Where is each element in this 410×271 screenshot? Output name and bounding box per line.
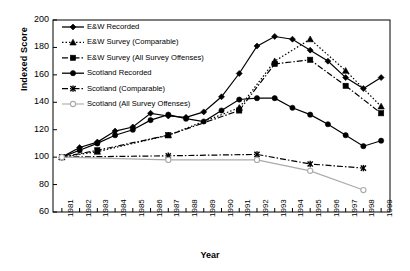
- legend-swatch-1: [62, 39, 84, 45]
- series-4: [59, 151, 366, 171]
- x-tick-1991: 1991: [243, 199, 252, 217]
- x-tick-1982: 1982: [84, 199, 93, 217]
- x-tick-1987: 1987: [172, 199, 181, 217]
- x-tick-1999: 1999: [385, 199, 394, 217]
- chart-legend-swatches: [62, 24, 84, 107]
- x-tick-1984: 1984: [119, 199, 128, 217]
- x-tick-1998: 1998: [367, 199, 376, 217]
- x-tick-1990: 1990: [226, 199, 235, 217]
- legend-swatch-3: [62, 71, 84, 76]
- x-tick-1995: 1995: [314, 199, 323, 217]
- series-5: [59, 155, 366, 193]
- x-tick-1992: 1992: [261, 199, 270, 217]
- legend-swatch-2: [62, 55, 84, 60]
- x-tick-1988: 1988: [190, 199, 199, 217]
- chart-container: Indexed Score Year 608010012014016018020…: [0, 0, 410, 271]
- legend-swatch-4: [62, 85, 84, 91]
- y-tick-200: 200: [23, 14, 49, 24]
- y-tick-140: 140: [23, 96, 49, 106]
- legend-label-5: Scotland (All Survey Offenses): [87, 99, 190, 108]
- legend-swatch-5: [62, 101, 84, 106]
- x-tick-1996: 1996: [332, 199, 341, 217]
- x-tick-1981: 1981: [66, 199, 75, 217]
- x-axis-title: Year: [150, 250, 270, 260]
- y-tick-80: 80: [23, 179, 49, 189]
- x-tick-1983: 1983: [101, 199, 110, 217]
- legend-label-3: Scotland Recorded: [87, 68, 152, 77]
- legend-label-1: E&W Survey (Comparable): [87, 37, 179, 46]
- x-tick-1985: 1985: [137, 199, 146, 217]
- y-tick-100: 100: [23, 151, 49, 161]
- legend-label-4: Scotland (Comparable): [87, 84, 165, 93]
- x-tick-1986: 1986: [155, 199, 164, 217]
- line-chart-plot: [0, 0, 410, 271]
- legend-label-0: E&W Recorded: [87, 22, 139, 31]
- x-tick-1997: 1997: [350, 199, 359, 217]
- y-tick-120: 120: [23, 124, 49, 134]
- x-tick-1993: 1993: [279, 199, 288, 217]
- y-tick-180: 180: [23, 41, 49, 51]
- chart-axes: [53, 20, 390, 212]
- legend-swatch-0: [62, 24, 84, 30]
- x-tick-1994: 1994: [296, 199, 305, 217]
- y-tick-160: 160: [23, 69, 49, 79]
- x-tick-1989: 1989: [208, 199, 217, 217]
- y-tick-60: 60: [23, 206, 49, 216]
- legend-label-2: E&W Survey (All Survey Offenses): [87, 53, 204, 62]
